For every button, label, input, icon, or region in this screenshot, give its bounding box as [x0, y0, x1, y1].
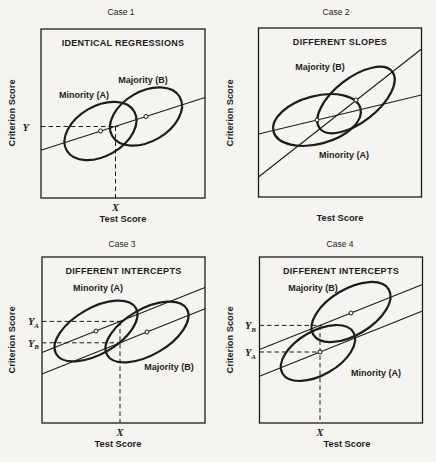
- y-cut-b-label: YB: [28, 338, 39, 352]
- minority-group-label: Minority (A): [59, 90, 109, 100]
- minority-group-label: Minority (A): [319, 150, 369, 160]
- x-axis-label: Test Score: [324, 439, 371, 449]
- panel-case-4: Case 4 DIFFERENT INTERCEPTS Majority (B)…: [225, 239, 423, 449]
- y-axis-label: Criterion Score: [225, 79, 235, 146]
- y-cut-b-label: YB: [245, 320, 256, 334]
- y-axis-label: Criterion Score: [7, 306, 17, 373]
- minority-mean-point: [99, 129, 103, 133]
- x-axis-label: Test Score: [100, 214, 147, 224]
- panel-header: IDENTICAL REGRESSIONS: [62, 38, 185, 48]
- y-axis-label: Criterion Score: [7, 79, 17, 146]
- panel-title: Case 3: [109, 239, 136, 249]
- minority-regression-line: [259, 95, 422, 134]
- majority-group-label: Majority (B): [144, 362, 194, 372]
- minority-group-label: Minority (A): [73, 283, 123, 293]
- minority-regression-line: [260, 311, 423, 376]
- figure-page: Case 1 IDENTICAL REGRESSIONS Minority (A…: [0, 0, 436, 462]
- majority-group-label: Majority (B): [288, 283, 338, 293]
- common-regression-line: [41, 97, 205, 150]
- minority-mean-point: [94, 329, 98, 333]
- y-cut-a-label: YA: [245, 347, 256, 361]
- minority-mean-point: [318, 350, 322, 354]
- x-axis-label: Test Score: [95, 439, 142, 449]
- majority-mean-point: [349, 311, 353, 315]
- x-cut-label: X: [115, 427, 124, 438]
- y-axis-label: Criterion Score: [225, 306, 235, 373]
- x-axis-label: Test Score: [317, 213, 364, 223]
- regression-cases-figure: Case 1 IDENTICAL REGRESSIONS Minority (A…: [0, 0, 436, 462]
- panel-case-3: Case 3 DIFFERENT INTERCEPTS Minority (A)…: [7, 239, 205, 449]
- majority-mean-point: [145, 330, 149, 334]
- x-cut-label: X: [315, 427, 324, 438]
- panel-case-1: Case 1 IDENTICAL REGRESSIONS Minority (A…: [7, 7, 205, 224]
- minority-mean-point: [315, 118, 319, 122]
- majority-mean-point: [144, 115, 148, 119]
- panel-title: Case 1: [108, 7, 135, 17]
- panel-title: Case 2: [323, 7, 350, 17]
- majority-group-label: Majority (B): [118, 75, 168, 85]
- panel-header: DIFFERENT SLOPES: [293, 37, 387, 47]
- majority-mean-point: [354, 98, 358, 102]
- x-cut-label: X: [111, 202, 120, 213]
- minority-group-label: Minority (A): [351, 368, 401, 378]
- panel-header: DIFFERENT INTERCEPTS: [65, 266, 181, 276]
- panel-header: DIFFERENT INTERCEPTS: [283, 266, 399, 276]
- y-cut-a-label: YA: [28, 316, 39, 330]
- panel-title: Case 4: [327, 239, 354, 249]
- majority-group-label: Majority (B): [295, 62, 345, 72]
- panel-case-2: Case 2 DIFFERENT SLOPES Majority (B) Min…: [225, 7, 422, 223]
- y-cut-label: Y: [23, 122, 31, 133]
